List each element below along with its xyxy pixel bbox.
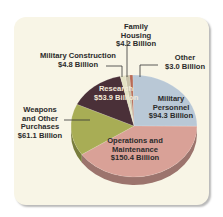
label-other: Other $3.0 Billion	[160, 54, 210, 71]
label-military-personnel: Military Personnel $94.3 Billion	[148, 95, 194, 121]
label-operations: Operations and Maintenance $150.4 Billio…	[104, 137, 166, 163]
label-family-housing: Family Housing $4.2 Billion	[112, 23, 160, 49]
label-research: Research $53.9 Billion	[94, 85, 138, 102]
label-weapons: Weapons and Other Purchases $61.1 Billio…	[16, 106, 64, 140]
label-military-construction: Military Construction $4.8 Billion	[38, 52, 118, 69]
